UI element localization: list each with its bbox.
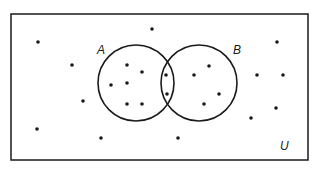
point-outside: [70, 63, 74, 67]
point-a-only: [125, 63, 129, 67]
set-a-label: A: [96, 43, 105, 57]
point-outside: [150, 27, 154, 31]
point-a-only: [140, 70, 144, 74]
universe-box: [11, 14, 308, 160]
point-outside: [275, 40, 279, 44]
point-outside: [274, 106, 278, 110]
point-outside: [176, 136, 180, 140]
set-b-label: B: [233, 43, 241, 57]
point-b-only: [192, 73, 196, 77]
point-a-only: [125, 102, 129, 106]
point-b-only: [202, 102, 206, 106]
point-a-only: [109, 83, 113, 87]
element-points: [35, 27, 285, 140]
point-outside: [281, 73, 285, 77]
set-b-circle: [161, 45, 237, 121]
point-outside: [36, 40, 40, 44]
point-a-and-b: [164, 73, 168, 77]
set-a-circle: [98, 45, 174, 121]
point-outside: [249, 116, 253, 120]
point-outside: [81, 99, 85, 103]
point-a-and-b: [165, 92, 169, 96]
point-b-only: [217, 92, 221, 96]
point-b-only: [207, 64, 211, 68]
point-outside: [99, 136, 103, 140]
point-outside: [255, 73, 259, 77]
point-a-only: [125, 81, 129, 85]
point-a-only: [140, 102, 144, 106]
point-outside: [35, 127, 39, 131]
universe-label: U: [280, 139, 289, 153]
venn-diagram: A B U: [0, 0, 319, 173]
